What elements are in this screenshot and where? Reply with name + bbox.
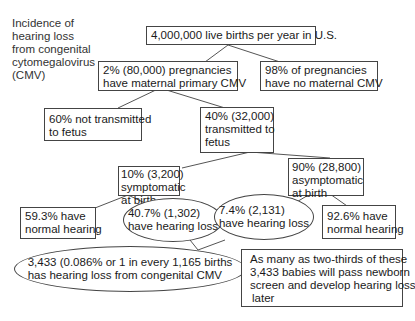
title-line: hearing loss bbox=[12, 30, 92, 43]
node-text: have hearing loss bbox=[219, 217, 309, 230]
node-text: fetus bbox=[205, 136, 269, 149]
node-live-births: 4,000,000 live births per year in U.S. bbox=[146, 26, 316, 45]
node-total-hearing-loss: 3,433 (0.086% or 1 in every 1,165 births… bbox=[14, 246, 246, 292]
node-text: screen and develop hearing loss bbox=[250, 279, 394, 292]
node-asymptomatic-normal-hearing: 92.6% have normal hearing bbox=[322, 205, 396, 239]
node-asymptomatic: 90% (28,800) asymptomatic at birth bbox=[288, 158, 364, 196]
node-text: have no maternal CMV bbox=[265, 77, 373, 90]
node-text: later bbox=[250, 292, 394, 305]
title-line: from congenital bbox=[12, 43, 92, 56]
diagram-title: Incidence of hearing loss from congenita… bbox=[12, 17, 92, 82]
node-text: normal hearing bbox=[327, 223, 391, 236]
node-text: 40.7% (1,302) bbox=[128, 207, 218, 220]
node-symptomatic-normal-hearing: 59.3% have normal hearing bbox=[20, 207, 96, 239]
node-text: 10% (3,200) bbox=[121, 168, 177, 181]
node-text: 60% not transmitted bbox=[49, 113, 137, 126]
node-text: have maternal primary CMV bbox=[103, 77, 233, 90]
node-note-late-onset: As many as two-thirds of these 3,433 bab… bbox=[241, 249, 403, 307]
node-text: 92.6% have bbox=[327, 210, 391, 223]
node-text: 2% (80,000) pregnancies bbox=[103, 64, 233, 77]
node-text: has hearing loss from congenital CMV bbox=[28, 269, 233, 282]
node-no-maternal-cmv: 98% of pregnancies have no maternal CMV bbox=[260, 61, 378, 91]
node-maternal-primary-cmv: 2% (80,000) pregnancies have maternal pr… bbox=[98, 61, 238, 91]
node-text: at birth bbox=[292, 187, 360, 200]
node-symptomatic-hearing-loss: 40.7% (1,302) have hearing loss bbox=[123, 198, 223, 242]
node-text: to fetus bbox=[49, 126, 137, 139]
node-text: symptomatic bbox=[121, 181, 177, 194]
node-not-transmitted: 60% not transmitted to fetus bbox=[44, 108, 142, 141]
node-text: 59.3% have bbox=[25, 210, 91, 223]
node-text: As many as two-thirds of these bbox=[250, 253, 394, 266]
title-line: cytomegalovirus bbox=[12, 56, 92, 69]
node-text: normal hearing bbox=[25, 223, 91, 236]
node-asymptomatic-hearing-loss: 7.4% (2,131) have hearing loss bbox=[214, 194, 314, 240]
node-text: 40% (32,000) bbox=[205, 110, 269, 123]
node-text: have hearing loss bbox=[128, 220, 218, 233]
node-transmitted: 40% (32,000) transmitted to fetus bbox=[200, 107, 274, 153]
node-text: asymptomatic bbox=[292, 174, 360, 187]
node-text: 98% of pregnancies bbox=[265, 64, 373, 77]
node-text: transmitted to bbox=[205, 123, 269, 136]
node-text: 7.4% (2,131) bbox=[219, 204, 309, 217]
node-text: 90% (28,800) bbox=[292, 161, 360, 174]
title-line: (CMV) bbox=[12, 69, 92, 82]
title-line: Incidence of bbox=[12, 17, 92, 30]
node-text: 3,433 babies will pass newborn bbox=[250, 266, 394, 279]
node-symptomatic: 10% (3,200) symptomatic at birth bbox=[118, 166, 180, 196]
node-text: 4,000,000 live births per year in U.S. bbox=[151, 29, 311, 42]
node-text: 3,433 (0.086% or 1 in every 1,165 births bbox=[28, 256, 233, 269]
